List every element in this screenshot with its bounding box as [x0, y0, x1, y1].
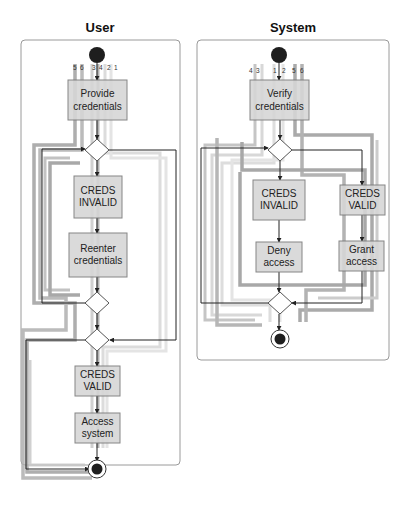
svg-text:Verify: Verify	[267, 88, 292, 99]
svg-text:system: system	[82, 428, 114, 439]
svg-text:CREDS: CREDS	[345, 188, 380, 199]
action-creds-valid-system[interactable]: CREDS VALID	[340, 185, 385, 215]
svg-text:Deny: Deny	[267, 245, 290, 256]
action-reenter-credentials[interactable]: Reenter credentials	[69, 233, 127, 277]
svg-text:INVALID: INVALID	[79, 197, 117, 208]
flow-label-6: 6	[300, 67, 304, 74]
lane-title-system: System	[270, 20, 316, 35]
svg-text:CREDS: CREDS	[80, 369, 115, 380]
svg-text:VALID: VALID	[83, 381, 111, 392]
svg-text:Provide: Provide	[81, 88, 115, 99]
final-node-user	[88, 460, 106, 478]
flow-label-4: 4	[249, 67, 253, 74]
flow-label-2: 2	[282, 67, 286, 74]
svg-text:INVALID: INVALID	[260, 200, 298, 211]
lane-title-user: User	[86, 20, 115, 35]
action-grant-access[interactable]: Grant access	[339, 241, 384, 271]
flow-label-5: 5	[292, 67, 296, 74]
action-creds-invalid-system[interactable]: CREDS INVALID	[253, 180, 305, 220]
initial-node-system	[271, 47, 287, 63]
flow-label-1: 1	[273, 67, 277, 74]
flow-label-1: 1	[114, 64, 118, 71]
flow-label-3: 3	[256, 67, 260, 74]
action-access-system[interactable]: Access system	[75, 413, 120, 443]
svg-text:CREDS: CREDS	[261, 188, 296, 199]
action-deny-access[interactable]: Deny access	[256, 242, 302, 272]
flow-label-6: 6	[80, 64, 84, 71]
final-node-system	[271, 330, 289, 348]
flow-label-5: 5	[73, 64, 77, 71]
svg-text:access: access	[346, 256, 377, 267]
svg-text:Reenter: Reenter	[80, 243, 116, 254]
action-creds-valid-user[interactable]: CREDS VALID	[75, 366, 120, 396]
svg-text:access: access	[263, 257, 294, 268]
svg-text:credentials: credentials	[74, 255, 122, 266]
initial-node-user	[89, 47, 105, 63]
flow-label-2: 2	[107, 64, 111, 71]
svg-text:CREDS: CREDS	[80, 185, 115, 196]
user-nodes: Provide credentials CREDS INVALID Reente…	[68, 47, 127, 478]
action-provide-credentials[interactable]: Provide credentials	[68, 80, 127, 120]
svg-text:Access: Access	[81, 416, 113, 427]
activity-diagram: User System	[0, 0, 410, 510]
action-creds-invalid-user[interactable]: CREDS INVALID	[74, 176, 122, 218]
svg-text:credentials: credentials	[255, 101, 303, 112]
svg-text:credentials: credentials	[73, 101, 121, 112]
flow-label-3: 3	[92, 64, 96, 71]
svg-text:VALID: VALID	[348, 200, 376, 211]
flow-label-4: 4	[99, 64, 103, 71]
svg-text:Grant: Grant	[349, 244, 374, 255]
action-verify-credentials[interactable]: Verify credentials	[250, 80, 309, 120]
